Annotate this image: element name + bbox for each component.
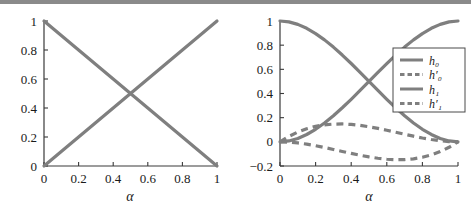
- y-tick-label: 0.4: [21, 101, 38, 116]
- right-y-tick-labels: −0.200.20.40.60.81: [249, 14, 273, 174]
- x-tick-label: 0.4: [343, 171, 360, 186]
- x-tick-label: 0.4: [105, 171, 122, 186]
- legend-label-2: h₁: [429, 83, 439, 97]
- curve-h1prime: [280, 142, 458, 160]
- x-tick-label: 0.2: [307, 171, 323, 186]
- x-tick-label: 0: [277, 171, 284, 186]
- x-tick-label: 0.6: [140, 171, 157, 186]
- x-tick-label: 0.8: [174, 171, 190, 186]
- legend-label-1: h′₀: [429, 68, 442, 82]
- y-tick-label: 0.2: [21, 130, 37, 145]
- legend[interactable]: h₀h′₀h₁h′₁: [393, 48, 465, 112]
- left-y-tick-labels: 00.20.40.60.81: [21, 14, 38, 174]
- right-plot-svg: −0.200.20.40.60.81 00.20.40.60.81 h₀h′₀h…: [236, 0, 471, 210]
- y-tick-label: 0.8: [21, 43, 37, 58]
- left-x-axis-title: α: [126, 189, 134, 204]
- right-x-axis-title: α: [365, 189, 373, 204]
- y-tick-label: 0.4: [257, 86, 274, 101]
- chart-panel-right: −0.200.20.40.60.81 00.20.40.60.81 h₀h′₀h…: [236, 0, 471, 210]
- y-tick-label: 0.6: [257, 62, 274, 77]
- y-tick-label: 1: [267, 14, 274, 29]
- x-tick-label: 0.6: [379, 171, 396, 186]
- left-plot-svg: 00.20.40.60.81 00.20.40.60.81 α: [0, 0, 235, 210]
- y-tick-label: −0.2: [249, 159, 273, 174]
- x-tick-label: 0.8: [414, 171, 430, 186]
- legend-label-3: h′₁: [429, 97, 442, 111]
- y-tick-label: 1: [31, 14, 38, 29]
- y-tick-label: 0.8: [257, 38, 273, 53]
- right-y-tick-marks: [280, 21, 284, 166]
- y-tick-label: 0.2: [257, 110, 273, 125]
- chart-panel-left: 00.20.40.60.81 00.20.40.60.81 α: [0, 0, 235, 210]
- hermite-basis-figure: 00.20.40.60.81 00.20.40.60.81 α −0.200.2…: [0, 0, 471, 210]
- left-curves: [44, 21, 217, 166]
- x-tick-label: 0: [41, 171, 48, 186]
- y-tick-label: 0: [267, 134, 274, 149]
- x-tick-label: 0.2: [70, 171, 86, 186]
- y-tick-label: 0: [31, 159, 38, 174]
- y-tick-label: 0.6: [21, 72, 38, 87]
- right-x-tick-labels: 00.20.40.60.81: [277, 171, 462, 186]
- legend-label-0: h₀: [429, 54, 439, 68]
- x-tick-label: 1: [214, 171, 221, 186]
- x-tick-label: 1: [455, 171, 462, 186]
- left-x-tick-labels: 00.20.40.60.81: [41, 171, 221, 186]
